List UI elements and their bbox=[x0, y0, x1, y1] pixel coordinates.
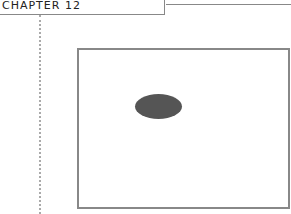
dotted-margin-line bbox=[39, 15, 41, 214]
chapter-header-box: CHAPTER 12 bbox=[0, 0, 165, 15]
figure-frame bbox=[77, 48, 290, 209]
ellipse-shape bbox=[135, 94, 182, 119]
header-rule bbox=[166, 4, 291, 5]
chapter-label: CHAPTER 12 bbox=[2, 0, 81, 12]
